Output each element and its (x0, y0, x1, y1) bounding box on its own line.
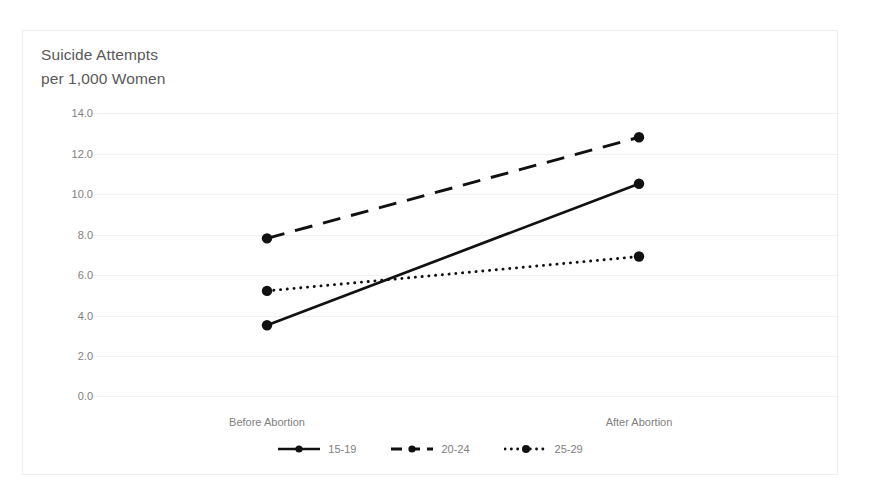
series-line-25-29 (267, 257, 639, 291)
legend-label: 15-19 (328, 443, 356, 455)
solid-line-with-dot-icon (277, 443, 321, 455)
data-point-20-24-before-abortion[interactable] (262, 233, 272, 243)
dotted-line-with-dot-icon (504, 443, 548, 455)
data-point-20-24-after-abortion[interactable] (634, 132, 644, 142)
series-line-20-24 (267, 137, 639, 238)
series-plot (23, 31, 839, 476)
dashed-line-with-dot-icon (390, 443, 434, 455)
data-point-25-29-after-abortion[interactable] (634, 251, 644, 261)
plot-area: 14.0 12.0 10.0 8.0 6.0 4.0 2.0 0.0 Befor… (23, 31, 839, 476)
legend-entry-25-29[interactable]: 25-29 (504, 443, 583, 455)
legend-label: 20-24 (441, 443, 469, 455)
legend-entry-15-19[interactable]: 15-19 (277, 443, 356, 455)
data-point-15-19-before-abortion[interactable] (262, 320, 272, 330)
data-point-15-19-after-abortion[interactable] (634, 179, 644, 189)
data-point-25-29-before-abortion[interactable] (262, 286, 272, 296)
legend-label: 25-29 (555, 443, 583, 455)
legend-entry-20-24[interactable]: 20-24 (390, 443, 469, 455)
chart-legend: 15-19 20-24 25-29 (23, 443, 837, 455)
series-line-15-19 (267, 184, 639, 326)
chart-figure: Suicide Attemptsper 1,000 Women 14.0 12.… (22, 30, 838, 475)
